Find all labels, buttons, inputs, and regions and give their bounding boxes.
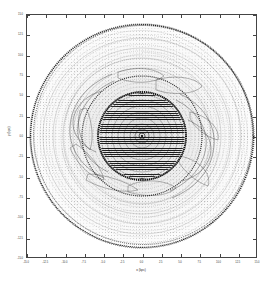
- x-tick: [143, 15, 144, 18]
- x-tick: [66, 254, 67, 257]
- x-tick: [123, 15, 124, 18]
- x-tick: [104, 15, 105, 18]
- figure-canvas: -15.0-12.5-10.0-7.5-5.0-2.50.02.55.07.51…: [0, 0, 276, 287]
- x-tick: [46, 254, 47, 257]
- x-tick: [123, 254, 124, 257]
- x-tick: [220, 254, 221, 257]
- y-tick-label: -10.0: [10, 216, 23, 219]
- x-tick-label: 5.0: [178, 261, 182, 264]
- x-tick: [85, 15, 86, 18]
- x-tick-label: -2.5: [120, 261, 124, 264]
- y-tick-label: 12.5: [10, 33, 23, 36]
- x-tick: [66, 15, 67, 18]
- y-tick-label: -15.0: [10, 257, 23, 260]
- y-tick-label: 2.5: [10, 114, 23, 117]
- x-tick: [200, 254, 201, 257]
- x-tick-label: -5.0: [101, 261, 105, 264]
- y-tick-label: 10.0: [10, 53, 23, 56]
- y-tick-label: -7.5: [10, 196, 23, 199]
- x-tick-label: 7.5: [197, 261, 201, 264]
- y-tick-label: -12.5: [10, 236, 23, 239]
- x-tick: [85, 254, 86, 257]
- x-tick: [104, 254, 105, 257]
- x-tick: [162, 254, 163, 257]
- x-tick-label: 12.5: [235, 261, 240, 264]
- y-tick-label: -2.5: [10, 155, 23, 158]
- x-tick-label: -15.0: [23, 261, 29, 264]
- x-tick: [27, 254, 28, 257]
- y-tick: [253, 15, 256, 16]
- y-tick: [27, 15, 30, 16]
- y-tick-label: 5.0: [10, 94, 23, 97]
- y-tick-label: 15.0: [10, 13, 23, 16]
- x-tick-label: 0.0: [140, 261, 144, 264]
- x-tick-label: -12.5: [42, 261, 48, 264]
- x-tick-label: 10.0: [216, 261, 221, 264]
- y-tick-label: 0.0: [10, 135, 23, 138]
- x-tick: [220, 15, 221, 18]
- core-rim-stipple: [30, 24, 254, 248]
- x-tick-label: -7.5: [82, 261, 86, 264]
- x-tick: [239, 254, 240, 257]
- x-tick: [181, 15, 182, 18]
- x-tick: [143, 254, 144, 257]
- x-tick-label: 15.0: [254, 261, 259, 264]
- x-tick: [181, 254, 182, 257]
- x-tick-label: 2.5: [159, 261, 163, 264]
- galaxy-disk: [30, 24, 254, 248]
- y-tick-label: -5.0: [10, 175, 23, 178]
- x-tick: [162, 15, 163, 18]
- x-tick: [239, 15, 240, 18]
- y-axis-title: y (kpc): [7, 126, 11, 136]
- x-tick: [200, 15, 201, 18]
- x-tick: [46, 15, 47, 18]
- x-tick-label: -10.0: [62, 261, 68, 264]
- y-tick-label: 7.5: [10, 74, 23, 77]
- x-axis-title: x (kpc): [136, 268, 146, 272]
- plot-frame: [26, 14, 257, 258]
